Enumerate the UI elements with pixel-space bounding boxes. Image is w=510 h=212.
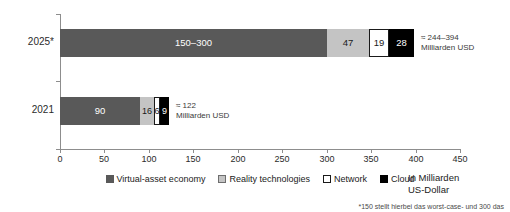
x-axis-tick-label: 200 xyxy=(230,154,245,164)
bar-total-annotation-2025: ≈ 244–394 Milliarden USD xyxy=(421,33,474,54)
x-axis-tick-label: 300 xyxy=(319,154,334,164)
x-axis-caption-line2: US-Dollar xyxy=(408,184,504,196)
category-label-2021: 2021 xyxy=(32,104,54,115)
x-axis-tick-label: 50 xyxy=(99,154,109,164)
bar-total-value: ≈ 244–394 xyxy=(421,33,474,43)
x-axis-line xyxy=(60,149,460,150)
bar-segment-label: 28 xyxy=(396,38,407,48)
x-axis-tick-label: 400 xyxy=(408,154,423,164)
x-axis-tick xyxy=(104,149,105,153)
legend-item-virtual-asset-economy[interactable]: Virtual-asset economy xyxy=(106,174,206,184)
legend-swatch-icon xyxy=(218,175,226,183)
x-axis-tick-label: 150 xyxy=(185,154,200,164)
bar-total-annotation-2021: ≈ 122 Milliarden USD xyxy=(176,101,229,122)
x-axis-tick xyxy=(327,149,328,153)
x-axis-tick xyxy=(60,149,61,153)
bar-segment-label: 90 xyxy=(95,106,106,116)
bar-segment-network-2025[interactable]: 19 xyxy=(369,29,389,57)
x-axis-tick-label: 350 xyxy=(363,154,378,164)
bar-row-2025: 150–300 47 19 28 xyxy=(60,29,414,57)
legend-swatch-icon xyxy=(323,175,331,183)
bar-segment-virtual-asset-economy-2025[interactable]: 150–300 xyxy=(60,29,327,57)
x-axis-tick xyxy=(193,149,194,153)
bar-segment-label: 16 xyxy=(142,107,152,116)
bar-segment-label: 6 xyxy=(155,107,160,116)
x-axis-tick-label: 0 xyxy=(57,154,62,164)
legend-swatch-icon xyxy=(106,175,114,183)
y-axis-tick xyxy=(56,81,61,82)
chart-footnote: *150 stellt hierbei das worst-case- und … xyxy=(358,203,504,210)
bar-total-unit: Milliarden USD xyxy=(421,43,474,53)
legend-label: Network xyxy=(334,174,367,184)
bar-segment-reality-technologies-2025[interactable]: 47 xyxy=(327,29,369,57)
bar-total-unit: Milliarden USD xyxy=(176,111,229,121)
x-axis-tick xyxy=(416,149,417,153)
x-axis-tick-label: 250 xyxy=(274,154,289,164)
x-axis-tick-label: 100 xyxy=(141,154,156,164)
bar-segment-cloud-2021[interactable]: 9 xyxy=(160,97,169,125)
bar-segment-label: 47 xyxy=(343,38,354,48)
legend-swatch-icon xyxy=(380,175,388,183)
x-axis-tick xyxy=(238,149,239,153)
x-axis-tick xyxy=(282,149,283,153)
stacked-bar-chart: 0 50 100 150 200 250 300 350 400 450 202… xyxy=(0,0,510,212)
x-axis-tick xyxy=(460,149,461,153)
bar-segment-label: 150–300 xyxy=(175,38,212,48)
legend-item-reality-technologies[interactable]: Reality technologies xyxy=(218,174,310,184)
bar-total-value: ≈ 122 xyxy=(176,101,229,111)
chart-legend: Virtual-asset economy Reality technologi… xyxy=(0,174,460,184)
legend-label: Virtual-asset economy xyxy=(117,174,206,184)
bar-segment-cloud-2025[interactable]: 28 xyxy=(389,29,414,57)
x-axis-tick xyxy=(371,149,372,153)
bar-segment-virtual-asset-economy-2021[interactable]: 90 xyxy=(60,97,140,125)
x-axis-caption: In Milliarden US-Dollar xyxy=(408,172,504,196)
bar-segment-label: 19 xyxy=(374,38,385,48)
bar-segment-reality-technologies-2021[interactable]: 16 xyxy=(140,97,154,125)
x-axis-tick-label: 450 xyxy=(452,154,467,164)
y-axis-tick xyxy=(56,14,61,15)
legend-label: Reality technologies xyxy=(229,174,310,184)
legend-item-network[interactable]: Network xyxy=(323,174,367,184)
x-axis-caption-line1: In Milliarden xyxy=(408,172,504,184)
x-axis-tick xyxy=(149,149,150,153)
bar-row-2021: 90 16 6 9 xyxy=(60,97,169,125)
category-label-2025: 2025* xyxy=(28,36,54,47)
bar-segment-label: 9 xyxy=(162,107,167,116)
